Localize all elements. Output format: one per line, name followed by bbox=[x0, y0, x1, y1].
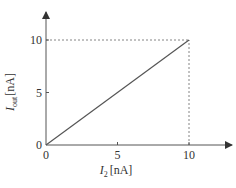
x-tick-label: 0 bbox=[43, 148, 49, 162]
y-tick-label: 5 bbox=[36, 86, 42, 100]
x-tick-label: 10 bbox=[183, 148, 195, 162]
y-tick-label: 0 bbox=[36, 138, 42, 152]
x-tick-label: 5 bbox=[115, 148, 121, 162]
y-axis-label: Iout[nA] bbox=[3, 73, 19, 112]
x-axis-label: I2[nA] bbox=[99, 163, 133, 179]
y-tick-label: 10 bbox=[30, 33, 42, 47]
chart: 0510 0510 I2[nA] Iout[nA] bbox=[0, 0, 236, 188]
data-series-line bbox=[46, 40, 189, 145]
